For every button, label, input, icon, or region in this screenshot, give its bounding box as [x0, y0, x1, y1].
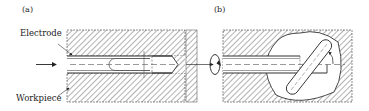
panel-a — [36, 30, 185, 102]
panel-b — [186, 30, 352, 102]
electrode-label: Electrode — [20, 28, 62, 38]
panel-label-b: (b) — [214, 5, 225, 14]
workpiece-label: Workpiece — [16, 93, 61, 103]
workpiece-sliver-b — [186, 30, 197, 102]
workpiece-top-a — [67, 30, 185, 56]
panel-label-a: (a) — [22, 5, 33, 14]
workpiece-bottom-a — [67, 73, 185, 102]
